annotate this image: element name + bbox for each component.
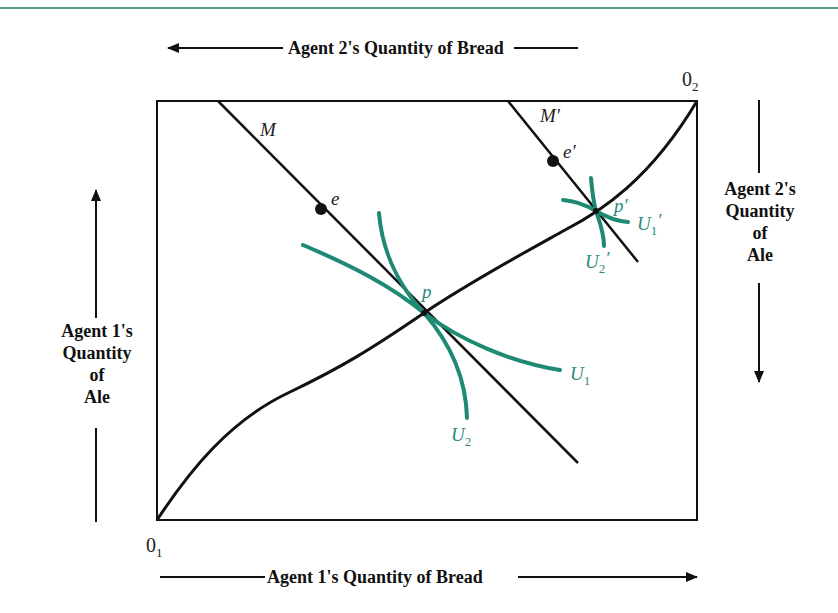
endowment-point-e-prime <box>547 155 559 167</box>
label-m: M <box>259 119 277 140</box>
left-axis-label-line: of <box>42 364 152 386</box>
left-axis-label-line: Ale <box>42 386 152 408</box>
label-e-prime: e′ <box>563 141 576 162</box>
right-axis-label: Agent 2's Quantity of Ale <box>705 178 815 266</box>
right-axis-label-line: Quantity <box>705 200 815 222</box>
left-axis-label-line: Agent 1's <box>42 320 152 342</box>
label-u2: U2 <box>451 424 471 449</box>
label-u1-prime: U1′ <box>637 210 662 238</box>
left-axis-label: Agent 1's Quantity of Ale <box>42 320 152 408</box>
endowment-point-e <box>315 203 327 215</box>
budget-line-m <box>218 101 578 463</box>
top-axis-label: Agent 2's Quantity of Bread <box>288 38 504 58</box>
equilibrium-point-p <box>421 310 427 316</box>
top-axis: Agent 2's Quantity of Bread <box>168 38 578 58</box>
right-axis-label-line: Agent 2's <box>705 178 815 200</box>
origin-agent-2: 02 <box>682 68 699 94</box>
budget-line-m-prime <box>508 101 638 262</box>
label-e: e <box>331 188 339 209</box>
label-p-prime: p′ <box>612 195 629 216</box>
right-axis-label-line: of <box>705 222 815 244</box>
bottom-axis-label: Agent 1's Quantity of Bread <box>267 567 483 587</box>
bottom-axis: Agent 1's Quantity of Bread <box>160 567 697 587</box>
label-u1: U1 <box>570 363 590 388</box>
origin-agent-1: 01 <box>146 534 163 560</box>
left-axis-label-line: Quantity <box>42 342 152 364</box>
edgeworth-box-diagram: Agent 2's Quantity of Bread Agent 1's Qu… <box>0 0 838 613</box>
right-axis-label-line: Ale <box>705 244 815 266</box>
label-m-prime: M′ <box>539 105 561 126</box>
equilibrium-point-p-prime <box>593 208 599 214</box>
label-u2-prime: U2′ <box>585 248 610 276</box>
label-p: p <box>420 281 432 302</box>
